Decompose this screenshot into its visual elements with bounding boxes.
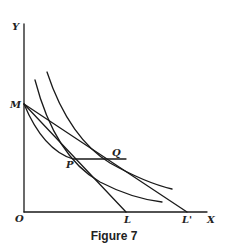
diagram-canvas: Y M O P Q L L' X [0, 0, 228, 251]
point-label-P: P [65, 159, 74, 170]
x-axis-label: X [206, 214, 216, 225]
indifference-curve-outer [47, 72, 172, 189]
point-label-M: M [9, 99, 22, 110]
point-label-L: L [123, 214, 131, 225]
offer-curve-M-P-Q [24, 104, 126, 159]
point-label-Q: Q [112, 147, 121, 158]
figure-7: Y M O P Q L L' X Figure 7 [0, 0, 228, 251]
y-axis-label: Y [12, 21, 20, 32]
figure-caption: Figure 7 [0, 229, 228, 243]
point-label-L-prime: L' [181, 214, 192, 225]
origin-label: O [15, 213, 24, 224]
budget-line-ML [24, 104, 126, 212]
